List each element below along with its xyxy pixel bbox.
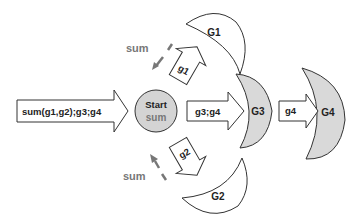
- return-g1: sum: [126, 42, 172, 70]
- return-g1-label: sum: [126, 42, 149, 54]
- arrow-to-g4: g4: [279, 94, 318, 128]
- input-arrow: sum(g1,g2);g3;g4: [17, 90, 128, 132]
- input-arrow-label: sum(g1,g2);g3;g4: [22, 106, 102, 117]
- node-g1-label: G1: [207, 27, 221, 38]
- start-node-title: Start: [145, 99, 167, 110]
- return-g2-label: sum: [123, 170, 146, 182]
- arrow-to-g3: g3;g4: [187, 92, 244, 130]
- arrow-to-g3-label: g3;g4: [195, 106, 221, 117]
- start-node-subtitle: sum: [146, 112, 167, 123]
- node-g2-label: G2: [211, 191, 225, 202]
- start-node: Start sum: [135, 90, 177, 132]
- node-g4-label: G4: [321, 107, 335, 118]
- workflow-diagram: sum(g1,g2);g3;g4 Start sum G1 G2 g1 g2 s…: [0, 0, 363, 222]
- return-g2: sum: [123, 154, 166, 182]
- arrow-to-g4-label: g4: [285, 105, 297, 116]
- arrow-to-g2: g2: [163, 134, 211, 184]
- node-g3-label: G3: [251, 106, 265, 117]
